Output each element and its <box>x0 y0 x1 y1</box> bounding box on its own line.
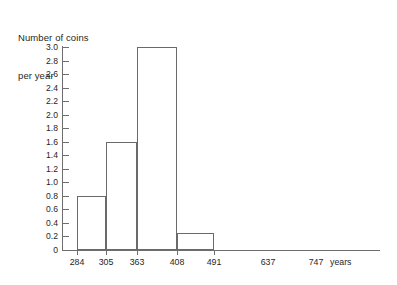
x-axis-tick <box>106 251 107 255</box>
y-axis-label: 1.8 <box>0 124 58 133</box>
x-axis-tick <box>77 251 78 255</box>
x-axis-label: 284 <box>70 257 85 267</box>
y-axis-tick <box>63 196 69 197</box>
y-axis-label-text: 1.2 <box>16 165 58 174</box>
histogram-bar <box>106 142 137 250</box>
x-axis-tick <box>137 251 138 255</box>
y-axis-label: 0.6 <box>0 205 58 214</box>
y-axis-label-text: 2.4 <box>16 84 58 93</box>
x-axis-line <box>62 250 380 251</box>
y-axis-label-text: 0.4 <box>16 219 58 228</box>
y-axis-tick <box>63 169 69 170</box>
y-axis-tick <box>63 128 69 129</box>
y-axis-label-text: 3.0 <box>16 43 58 52</box>
x-axis-tick <box>214 251 215 255</box>
y-axis-label-text: 1.6 <box>16 138 58 147</box>
x-axis-unit-label: years <box>330 257 352 267</box>
histogram-bar <box>77 196 106 250</box>
x-axis-label: 491 <box>207 257 222 267</box>
x-axis-label: 637 <box>261 257 276 267</box>
y-axis-label: 1.0 <box>0 178 58 187</box>
x-axis-label: 363 <box>130 257 145 267</box>
y-axis-tick <box>63 74 69 75</box>
y-axis-tick <box>63 209 69 210</box>
y-axis-label-text: 1.4 <box>16 151 58 160</box>
y-axis-label: 0.4 <box>0 219 58 228</box>
y-axis-label: 2.2 <box>0 97 58 106</box>
y-axis-label: 0 <box>0 246 58 255</box>
y-axis-label-text: 1.8 <box>16 124 58 133</box>
y-axis-tick <box>63 155 69 156</box>
y-axis-tick <box>63 223 69 224</box>
y-axis-label-text: 2.6 <box>16 70 58 79</box>
y-axis-line <box>62 46 63 251</box>
y-axis-tick <box>63 182 69 183</box>
y-axis-label-text: 0.6 <box>16 205 58 214</box>
y-axis-label: 3.0 <box>0 43 58 52</box>
chart-canvas: Number of coins per year 3.02.82.62.42.2… <box>0 0 397 285</box>
y-axis-label: 2.0 <box>0 111 58 120</box>
y-axis-label-text: 0.8 <box>16 192 58 201</box>
histogram-bar <box>137 47 177 250</box>
y-axis-tick <box>63 101 69 102</box>
y-axis-tick <box>63 88 69 89</box>
y-axis-label: 2.8 <box>0 57 58 66</box>
y-axis-label: 2.4 <box>0 84 58 93</box>
y-axis-label: 1.2 <box>0 165 58 174</box>
y-axis-tick <box>63 236 69 237</box>
y-axis-tick <box>63 250 69 251</box>
y-axis-tick <box>63 142 69 143</box>
y-axis-label-text: 2.0 <box>16 111 58 120</box>
x-axis-label: 305 <box>99 257 114 267</box>
y-axis-label: 2.6 <box>0 70 58 79</box>
y-axis-tick <box>63 61 69 62</box>
y-axis-label-text: 2.2 <box>16 97 58 106</box>
y-axis-label: 1.4 <box>0 151 58 160</box>
x-axis-tick <box>177 251 178 255</box>
y-axis-label-text: 0.2 <box>16 232 58 241</box>
y-axis-label: 0.2 <box>0 232 58 241</box>
histogram-bar <box>177 233 214 250</box>
y-axis-label: 0.8 <box>0 192 58 201</box>
x-axis-label: 747 <box>309 257 324 267</box>
x-axis-label: 408 <box>170 257 185 267</box>
y-axis-tick <box>63 47 69 48</box>
y-axis-label: 1.6 <box>0 138 58 147</box>
y-axis-label-text: 1.0 <box>16 178 58 187</box>
y-axis-label-text: 2.8 <box>16 57 58 66</box>
y-axis-label-text: 0 <box>16 246 58 255</box>
y-axis-tick <box>63 115 69 116</box>
